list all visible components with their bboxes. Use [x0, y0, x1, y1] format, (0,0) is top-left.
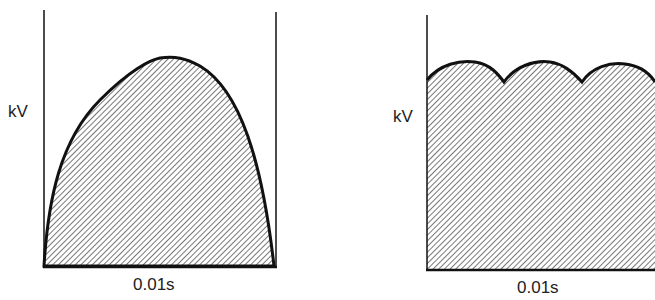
- right-y-label: kV: [393, 107, 413, 127]
- left-y-label: kV: [8, 102, 28, 122]
- half-wave-area: [44, 57, 274, 266]
- half-wave-chart: [43, 10, 277, 267]
- right-x-label: 0.01s: [517, 278, 559, 298]
- diagram-canvas: [0, 0, 655, 300]
- rectified-chart: [426, 15, 655, 271]
- rectified-area: [427, 62, 655, 270]
- left-x-label: 0.01s: [133, 275, 175, 295]
